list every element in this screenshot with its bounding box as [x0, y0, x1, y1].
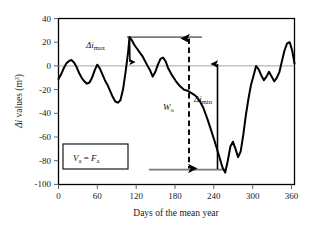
- x-tick-label-240: 240: [207, 191, 221, 201]
- svg-text:Δi values (m3): Δi values (m3): [14, 74, 25, 129]
- y-axis-tick-labels: 40 20 0 -20 -40 -60 -80 -100: [35, 14, 52, 190]
- x-axis-title: Days of the mean year: [133, 208, 219, 218]
- y-axis-title-mid: values (m: [14, 80, 25, 120]
- x-tick-label-60: 60: [93, 191, 103, 201]
- y-tick-label-neg100: -100: [35, 179, 52, 189]
- y-tick-label-0: 0: [47, 61, 52, 71]
- w-o-label-sub: o: [171, 106, 174, 113]
- y-axis-title-suffix: ): [14, 74, 25, 77]
- x-tick-label-300: 300: [246, 191, 260, 201]
- y-axis-ticks: [54, 19, 59, 185]
- y-tick-label-20: 20: [42, 37, 52, 47]
- y-tick-label-neg80: -80: [39, 156, 51, 166]
- y-axis-title-symbol: Δi: [14, 119, 24, 129]
- va-fa-equals: =: [81, 153, 91, 163]
- x-tick-label-180: 180: [168, 191, 182, 201]
- y-tick-label-40: 40: [42, 14, 52, 24]
- x-axis-tick-labels: 0 60 120 180 240 300 360: [56, 191, 299, 201]
- va-fa-right-sub: a: [96, 157, 99, 164]
- chart-canvas: 40 20 0 -20 -40 -60 -80 -100 0 60 120 18…: [0, 0, 313, 228]
- delta-i-min-label-sub: min: [202, 98, 213, 105]
- chart-figure: 40 20 0 -20 -40 -60 -80 -100 0 60 120 18…: [0, 0, 313, 228]
- x-tick-label-120: 120: [129, 191, 143, 201]
- y-tick-label-neg20: -20: [39, 85, 51, 95]
- x-tick-label-360: 360: [285, 191, 299, 201]
- y-tick-label-neg60: -60: [39, 132, 51, 142]
- delta-i-max-label-sub: max: [94, 44, 106, 51]
- x-axis-ticks: [59, 185, 292, 190]
- va-fa-box: Va = Fa: [63, 144, 128, 169]
- va-fa-box-label: Va = Fa: [73, 153, 99, 164]
- x-tick-label-0: 0: [56, 191, 61, 201]
- y-axis-title: Δi values (m3): [14, 74, 25, 129]
- y-tick-label-neg40: -40: [39, 108, 51, 118]
